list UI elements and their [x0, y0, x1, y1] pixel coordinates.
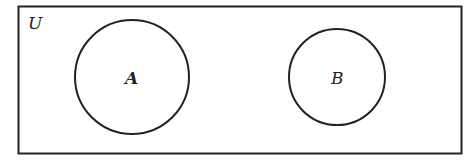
universe-rectangle — [19, 7, 462, 154]
set-a-label: A — [123, 68, 138, 88]
universe-label: U — [28, 13, 43, 33]
venn-diagram: U A B — [0, 0, 475, 160]
set-b-label: B — [330, 68, 344, 88]
